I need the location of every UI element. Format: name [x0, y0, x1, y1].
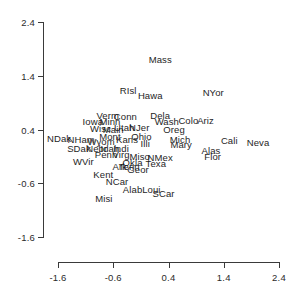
point-label: Cali [221, 135, 238, 146]
point-label: SCar [152, 187, 174, 198]
point-label: Mass [149, 53, 172, 64]
point-label: Flor [204, 151, 221, 162]
point-label: Misi [95, 193, 112, 204]
point-label: Hawa [138, 90, 163, 101]
x-tick-label: 1.4 [217, 272, 231, 283]
y-tick-mark [38, 130, 44, 131]
x-tick-mark [58, 262, 59, 268]
x-tick-label: 0.4 [162, 272, 176, 283]
x-tick-mark [224, 262, 225, 268]
x-tick-mark [279, 262, 280, 268]
y-tick-label: 0.4 [21, 124, 35, 135]
x-tick-label: -0.6 [105, 272, 122, 283]
point-label: RIsl [120, 85, 137, 96]
x-tick-mark [169, 262, 170, 268]
y-tick-mark [38, 22, 44, 23]
y-tick-mark [38, 76, 44, 77]
y-tick-mark [38, 183, 44, 184]
x-tick-label: 2.4 [272, 272, 286, 283]
point-label: NYor [203, 86, 224, 97]
y-tick-label: 2.4 [21, 17, 35, 28]
y-tick-label: -1.6 [18, 232, 35, 243]
point-label: WVir [73, 156, 94, 167]
point-label: Alab [123, 183, 142, 194]
point-label: Neva [247, 136, 270, 147]
point-label: Illi [141, 137, 150, 148]
scatter-plot: -1.6-0.60.41.42.4 -1.6-0.60.41.42.4 Mass… [0, 0, 297, 295]
point-label: Mary [170, 139, 192, 150]
x-tick-mark [113, 262, 114, 268]
y-tick-label: 1.4 [21, 70, 35, 81]
y-tick-mark [38, 237, 44, 238]
point-label: Geor [127, 164, 149, 175]
point-label: Ariz [197, 114, 214, 125]
y-tick-label: -0.6 [18, 178, 35, 189]
x-tick-label: -1.6 [49, 272, 66, 283]
